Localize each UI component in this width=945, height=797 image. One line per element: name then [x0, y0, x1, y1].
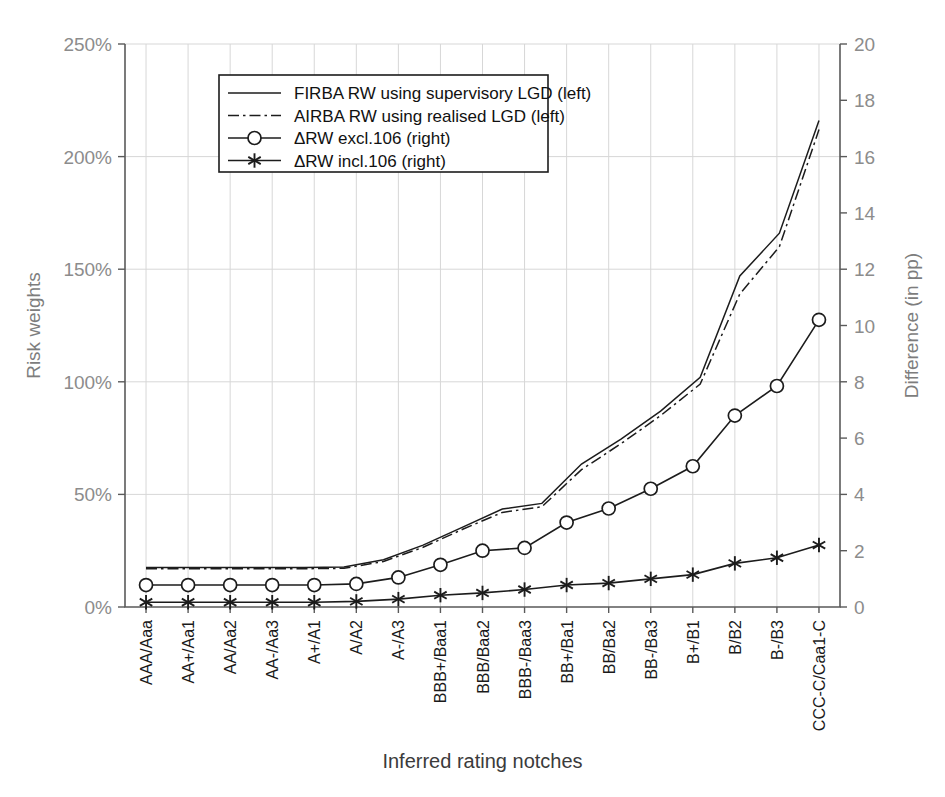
y-axis-right-tick-label: 4: [854, 484, 865, 505]
data-point-marker-circle: [476, 544, 489, 557]
y-axis-left-title: Risk weights: [23, 272, 44, 379]
x-axis-category-label: AA-/Aa3: [264, 620, 281, 680]
y-axis-right-tick-label: 16: [854, 147, 875, 168]
y-axis-right-tick-label: 6: [854, 428, 865, 449]
x-axis-category-label: BB+/Ba1: [559, 620, 576, 684]
legend-marker-circle: [248, 132, 261, 145]
y-axis-right-tick-label: 12: [854, 259, 875, 280]
chart-figure: 0%50%100%150%200%250% 02468101214161820 …: [0, 0, 945, 797]
data-point-marker-circle: [644, 482, 657, 495]
x-axis-category-label: CCC-C/Caa1-C: [811, 620, 828, 731]
data-point-marker-circle: [224, 579, 237, 592]
data-point-marker-circle: [392, 571, 405, 584]
legend-item-label: FIRBA RW using supervisory LGD (left): [294, 84, 591, 103]
x-axis-category-label: AA+/Aa1: [180, 620, 197, 684]
data-point-marker-circle: [560, 516, 573, 529]
y-axis-right-tick-label: 10: [854, 316, 875, 337]
y-axis-right-tick-label: 8: [854, 372, 865, 393]
data-point-marker-circle: [308, 579, 321, 592]
x-axis-category-label: A/A2: [348, 620, 365, 655]
data-point-marker-circle: [770, 380, 783, 393]
x-axis-category-label: BBB/Baa2: [475, 620, 492, 694]
y-axis-left-tick-label: 50%: [74, 484, 112, 505]
data-point-marker-circle: [728, 409, 741, 422]
y-axis-left-tick-label: 200%: [63, 147, 112, 168]
data-point-marker-circle: [266, 579, 279, 592]
y-axis-left-tick-label: 100%: [63, 372, 112, 393]
x-axis-title: Inferred rating notches: [382, 750, 582, 772]
chart-legend: FIRBA RW using supervisory LGD (left)AIR…: [219, 75, 591, 172]
data-point-marker-circle: [434, 558, 447, 571]
x-axis-category-label: B-/B3: [769, 620, 786, 660]
legend-item-label: ΔRW excl.106 (right): [294, 129, 451, 148]
y-axis-left-tick-label: 150%: [63, 259, 112, 280]
x-axis-category-label: AA/Aa2: [222, 620, 239, 674]
data-point-marker-circle: [602, 502, 615, 515]
data-point-marker-circle: [812, 313, 825, 326]
data-point-marker-circle: [182, 579, 195, 592]
y-axis-right-tick-label: 14: [854, 203, 876, 224]
y-axis-right-tick-label: 18: [854, 90, 875, 111]
x-axis-category-label: BBB-/Baa3: [517, 620, 534, 699]
x-axis-category-label: BB-/Ba3: [643, 620, 660, 680]
legend-item-label: ΔRW incl.106 (right): [294, 152, 446, 171]
data-point-marker-circle: [518, 541, 531, 554]
x-axis-category-label: AAA/Aaa: [138, 620, 155, 685]
data-point-marker-circle: [686, 460, 699, 473]
y-axis-left-tick-label: 250%: [63, 34, 112, 55]
x-axis-category-label: B/B2: [727, 620, 744, 655]
risk-weight-line-chart: 0%50%100%150%200%250% 02468101214161820 …: [0, 0, 945, 797]
x-axis-category-label: BBB+/Baa1: [432, 620, 449, 703]
legend-item-label: AIRBA RW using realised LGD (left): [294, 107, 565, 126]
x-axis-category-label: A-/A3: [390, 620, 407, 660]
y-axis-right-tick-label: 0: [854, 597, 865, 618]
data-point-marker-circle: [350, 577, 363, 590]
data-point-marker-circle: [140, 579, 153, 592]
y-axis-left-tick-label: 0%: [85, 597, 113, 618]
y-axis-right-tick-label: 20: [854, 34, 875, 55]
y-axis-right-title: Difference (in pp): [901, 253, 922, 398]
y-axis-right-tick-label: 2: [854, 541, 865, 562]
x-axis-category-label: BB/Ba2: [601, 620, 618, 674]
x-axis-category-label: A+/A1: [306, 620, 323, 664]
x-axis-category-label: B+/B1: [685, 620, 702, 664]
